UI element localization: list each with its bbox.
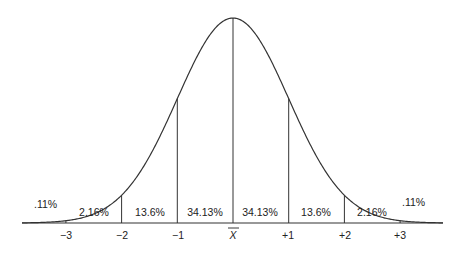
region-label-m1-mean: 34.13% xyxy=(187,206,223,218)
tick-label-p3: +3 xyxy=(394,229,406,241)
tick-label-mean: X xyxy=(228,229,237,241)
sd-lines xyxy=(66,18,400,223)
tick-label-p2: +2 xyxy=(339,229,351,241)
tick-label-m1: −1 xyxy=(172,229,184,241)
region-label-m3-m2: 2.16% xyxy=(79,206,109,218)
region-label-m2-m1: 13.6% xyxy=(135,206,165,218)
normal-distribution-chart: .11% 2.16% 13.6% 34.13% 34.13% 13.6% 2.1… xyxy=(0,0,457,253)
region-label-p2-p3: 2.16% xyxy=(357,206,387,218)
region-label-mean-p1: 34.13% xyxy=(242,206,278,218)
tick-label-m2: −2 xyxy=(116,229,128,241)
tick-label-p1: +1 xyxy=(282,229,294,241)
tick-label-m3: −3 xyxy=(60,229,72,241)
region-label-p1-p2: 13.6% xyxy=(301,206,331,218)
region-label-right-tail: .11% xyxy=(402,196,425,208)
region-label-left-tail: .11% xyxy=(34,198,57,210)
